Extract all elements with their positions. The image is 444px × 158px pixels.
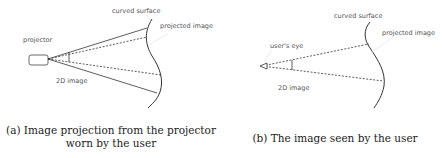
panel-a-drawing: projector curved surface projected image…	[23, 7, 213, 108]
curved-surface-a	[146, 19, 161, 108]
ray-solid-bottom	[48, 59, 157, 93]
sight-line-bottom	[262, 66, 383, 81]
ray-solid-top	[48, 28, 147, 59]
leader-projected-b	[372, 38, 392, 52]
leader-projected-a	[150, 34, 168, 44]
label-projected-image-a: projected image	[160, 22, 213, 30]
caption-a: (a) Image projection from the projector …	[0, 124, 222, 150]
eye-icon	[260, 63, 267, 69]
label-2d-image-a: 2D image	[56, 77, 87, 85]
label-curved-surface-b: curved surface	[334, 12, 382, 20]
ray-dashed-bottom	[48, 59, 161, 75]
label-projector: projector	[23, 36, 53, 44]
leader-curved-a	[146, 15, 151, 20]
caption-a-line2: worn by the user	[0, 137, 222, 150]
label-users-eye: user's eye	[270, 42, 303, 50]
caption-b-text: (b) The image seen by the user	[245, 132, 425, 145]
leader-eye	[264, 50, 272, 62]
label-curved-surface-a: curved surface	[112, 7, 160, 15]
caption-b: (b) The image seen by the user	[245, 132, 425, 145]
label-2d-image-b: 2D image	[278, 84, 309, 92]
caption-a-line1: (a) Image projection from the projector	[0, 124, 222, 137]
panel-b-drawing: user's eye curved surface projected imag…	[260, 12, 435, 108]
ray-dashed-top	[48, 37, 147, 59]
projector-icon	[29, 55, 48, 65]
label-projected-image-b: projected image	[382, 29, 435, 37]
